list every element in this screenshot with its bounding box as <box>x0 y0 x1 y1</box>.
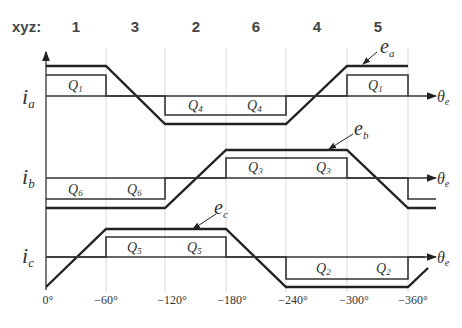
emf-b-pointer <box>329 134 353 149</box>
sector-label: 3 <box>131 18 139 35</box>
svg-text:Q6: Q6 <box>127 182 142 198</box>
emf-a-label: ea <box>380 35 395 59</box>
phase-b: ib Q6 Q6 Q3 Q3 eb θe <box>22 117 450 208</box>
tick-label: 0° <box>43 293 54 307</box>
emf-b-label: eb <box>354 117 369 141</box>
theta-e-label: θe <box>437 170 450 189</box>
switch-label: Q4 <box>188 98 203 114</box>
svg-text:Q4: Q4 <box>188 98 203 114</box>
svg-text:Q5: Q5 <box>127 240 142 256</box>
current-b-label: ib <box>22 164 35 191</box>
sector-label: 1 <box>72 18 80 35</box>
x-tick-labels: 0° −60° −120° −180° −240° −300° −360° <box>43 293 428 307</box>
switch-label: Q2 <box>316 261 331 277</box>
switch-label: Q2 <box>376 261 391 277</box>
current-c-waveform <box>46 237 425 279</box>
theta-e-label: θe <box>437 88 450 107</box>
theta-e-label: θe <box>437 249 450 268</box>
switch-label: Q1 <box>68 78 83 94</box>
svg-text:Q1: Q1 <box>368 78 383 94</box>
switch-label: Q3 <box>316 160 331 176</box>
sector-label: 2 <box>192 18 200 35</box>
svg-text:Q5: Q5 <box>187 240 202 256</box>
sector-header: xyz: 1 3 2 6 4 5 <box>12 18 382 35</box>
svg-text:Q1: Q1 <box>68 78 83 94</box>
sector-label: 6 <box>252 18 260 35</box>
tick-label: −60° <box>94 293 118 307</box>
current-c-label: ic <box>22 243 34 270</box>
tick-label: −300° <box>339 293 369 307</box>
svg-text:Q3: Q3 <box>316 160 331 176</box>
tick-label: −240° <box>278 293 308 307</box>
xyz-label: xyz: <box>12 18 41 35</box>
tick-label: −180° <box>217 293 247 307</box>
switch-label: Q6 <box>127 182 142 198</box>
sector-label: 4 <box>313 18 322 35</box>
switch-label: Q6 <box>68 182 83 198</box>
emf-a-pointer <box>363 52 377 64</box>
current-a-waveform <box>46 75 408 115</box>
svg-text:Q3: Q3 <box>248 160 263 176</box>
svg-text:Q4: Q4 <box>247 98 262 114</box>
switch-label: Q1 <box>368 78 383 94</box>
current-a-label: ia <box>22 84 35 111</box>
bldc-commutation-waveform-diagram: xyz: 1 3 2 6 4 5 ia Q1 Q4 Q4 Q1 <box>0 0 462 328</box>
svg-text:Q6: Q6 <box>68 182 83 198</box>
switch-label: Q4 <box>247 98 262 114</box>
emf-c-pointer <box>193 214 216 229</box>
phase-c: ic Q5 Q5 Q2 Q2 ec θe <box>22 196 450 287</box>
svg-text:Q2: Q2 <box>316 261 331 277</box>
switch-label: Q5 <box>127 240 142 256</box>
sector-label: 5 <box>374 18 382 35</box>
svg-text:Q2: Q2 <box>376 261 391 277</box>
phase-a: ia Q1 Q4 Q4 Q1 ea θe <box>22 35 450 124</box>
switch-label: Q5 <box>187 240 202 256</box>
tick-label: −360° <box>398 293 428 307</box>
tick-label: −120° <box>157 293 187 307</box>
switch-label: Q3 <box>248 160 263 176</box>
